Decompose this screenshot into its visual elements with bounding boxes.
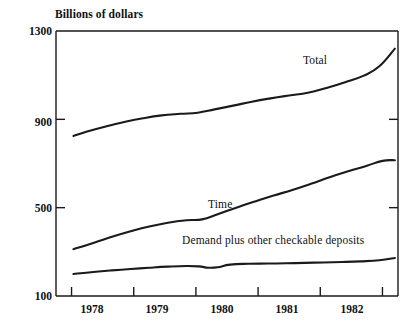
x-axis-ticks — [72, 287, 383, 296]
series-lines — [73, 49, 394, 274]
series-line-total — [73, 49, 394, 136]
plot-area — [0, 0, 420, 333]
y-axis-ticks — [56, 119, 398, 207]
series-line-time — [73, 160, 394, 249]
axis-frame — [56, 31, 398, 296]
chart-container: Billions of dollars 1300 900 500 100 197… — [0, 0, 420, 333]
series-line-demand-plus-other-checkable-deposits — [73, 258, 394, 274]
